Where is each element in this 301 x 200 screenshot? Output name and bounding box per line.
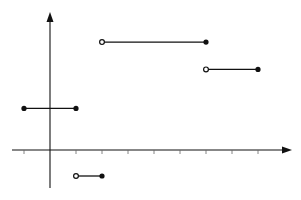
right-endpoint-closed-dot-icon <box>203 40 208 45</box>
axes <box>12 12 292 188</box>
left-endpoint-open-dot-icon <box>74 174 79 179</box>
step-function-graph <box>0 0 301 200</box>
y-axis-arrow-icon <box>47 12 54 22</box>
right-endpoint-closed-dot-icon <box>73 106 78 111</box>
left-endpoint-closed-dot-icon <box>21 106 26 111</box>
left-endpoint-open-dot-icon <box>100 40 105 45</box>
segment-2 <box>74 173 105 178</box>
left-endpoint-open-dot-icon <box>204 67 209 72</box>
right-endpoint-closed-dot-icon <box>99 173 104 178</box>
x-axis-arrow-icon <box>282 147 292 154</box>
function-segments <box>21 40 260 179</box>
right-endpoint-closed-dot-icon <box>255 67 260 72</box>
x-axis-ticks <box>24 150 258 154</box>
segment-3 <box>100 40 209 45</box>
segment-4 <box>204 67 261 72</box>
